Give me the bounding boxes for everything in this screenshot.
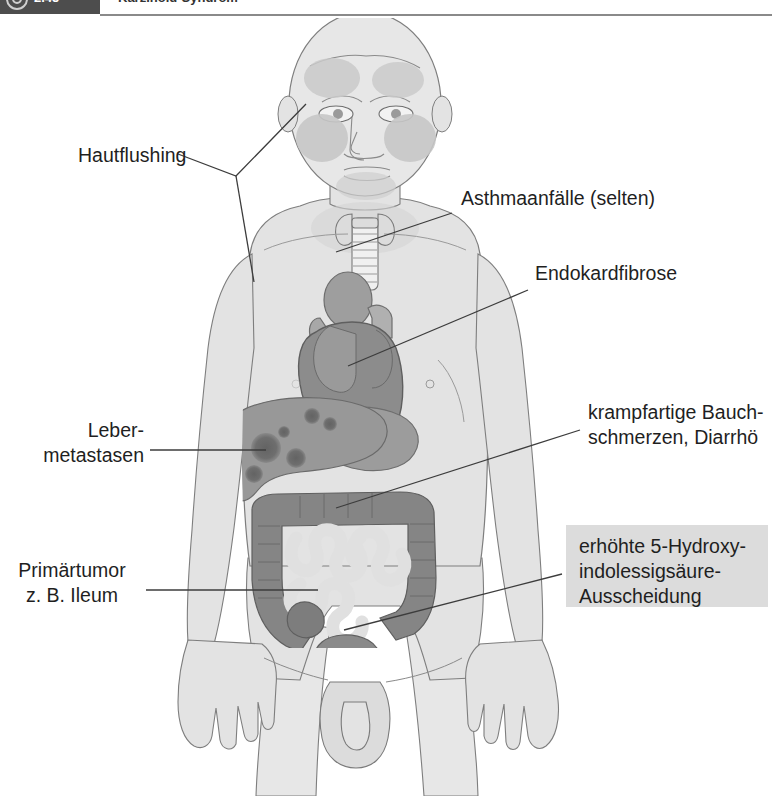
- label-hautflushing: Hautflushing: [78, 143, 186, 168]
- header-divider: [100, 14, 772, 16]
- genitalia-outline: [320, 682, 390, 768]
- figure-page: 2.45 Karzinoid-Syndrom: [0, 0, 772, 796]
- header-title: Karzinoid-Syndrom: [118, 0, 238, 10]
- label-primaertumor: Primärtumor z. B. Ileum: [0, 558, 144, 608]
- label-krampfartige-bauchschmerzen: krampfartige Bauch- schmerzen, Diarrhö: [588, 400, 764, 450]
- label-endokardfibrose: Endokardfibrose: [535, 261, 677, 286]
- label-asthmaanfaelle: Asthmaanfälle (selten): [461, 186, 655, 211]
- label-lebermetastasen: Leber- metastasen: [8, 418, 144, 468]
- page-header: 2.45 Karzinoid-Syndrom: [0, 0, 772, 18]
- header-chapter-number: 2.45: [34, 0, 59, 10]
- callout-box-hydroxyindolessigsaeure: erhöhte 5-Hydroxy- indolessigsäure- Auss…: [566, 525, 768, 607]
- primary-tumor-ileum: [287, 602, 324, 638]
